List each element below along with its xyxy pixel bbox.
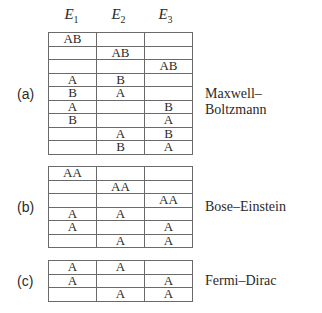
state-cell xyxy=(97,60,145,74)
state-cell xyxy=(49,194,97,208)
bose-einstein-table: AAAAAAAAAAAA xyxy=(48,166,193,248)
maxwell-boltzmann-table: ABABABABBAABBAABBA xyxy=(48,32,193,155)
state-cell xyxy=(97,221,145,235)
state-cell xyxy=(49,60,97,74)
state-cell xyxy=(145,87,193,101)
table-row: AB xyxy=(49,60,193,74)
state-cell: AA xyxy=(145,194,193,208)
table-row: AA xyxy=(49,221,193,235)
state-cell xyxy=(145,261,193,275)
table-row: AA xyxy=(49,261,193,275)
table-row: AA xyxy=(49,288,193,302)
state-cell: A xyxy=(97,288,145,302)
state-cell xyxy=(145,33,193,47)
state-cell: A xyxy=(145,114,193,128)
table-row: AA xyxy=(49,167,193,181)
state-cell: A xyxy=(97,234,145,248)
state-cell xyxy=(97,33,145,47)
state-cell: A xyxy=(49,221,97,235)
state-cell xyxy=(49,288,97,302)
state-cell: A xyxy=(145,221,193,235)
state-cell xyxy=(97,167,145,181)
statistics-name-maxwell-boltzmann: Maxwell–Boltzmann xyxy=(205,86,322,118)
state-cell: AB xyxy=(49,33,97,47)
state-cell: A xyxy=(97,87,145,101)
table-row: AB xyxy=(49,33,193,47)
state-cell: AB xyxy=(145,60,193,74)
statistics-name-fermi-dirac: Fermi–Dirac xyxy=(205,273,277,289)
state-cell: A xyxy=(49,261,97,275)
energy-level-header-e3: E3 xyxy=(142,6,189,25)
state-cell xyxy=(97,100,145,114)
energy-level-header-e2: E2 xyxy=(95,6,142,25)
statistics-name-bose-einstein: Bose–Einstein xyxy=(205,199,286,215)
panel-label-b: (b) xyxy=(17,199,34,215)
state-cell xyxy=(49,141,97,155)
state-cell: B xyxy=(49,114,97,128)
state-cell: A xyxy=(97,261,145,275)
state-cell xyxy=(97,114,145,128)
table-row: AA xyxy=(49,234,193,248)
panel-label-c: (c) xyxy=(17,273,33,289)
state-cell: A xyxy=(97,207,145,221)
state-cell: AA xyxy=(49,167,97,181)
table-row: BA xyxy=(49,141,193,155)
state-cell xyxy=(49,127,97,141)
table-row: BA xyxy=(49,114,193,128)
state-cell xyxy=(49,234,97,248)
state-cell: A xyxy=(49,274,97,288)
energy-level-header-e1: E1 xyxy=(48,6,95,25)
state-cell: B xyxy=(97,141,145,155)
fermi-dirac-table: AAAAAA xyxy=(48,260,193,302)
state-cell xyxy=(145,167,193,181)
panel-label-a: (a) xyxy=(17,86,34,102)
state-cell: A xyxy=(145,234,193,248)
state-cell xyxy=(49,180,97,194)
table-row: BA xyxy=(49,87,193,101)
state-cell: AB xyxy=(97,46,145,60)
state-cell: A xyxy=(145,141,193,155)
state-cell xyxy=(49,46,97,60)
state-cell: B xyxy=(49,87,97,101)
state-cell: A xyxy=(145,288,193,302)
state-cell xyxy=(97,194,145,208)
table-row: AA xyxy=(49,194,193,208)
state-cell: AA xyxy=(97,180,145,194)
state-cell xyxy=(145,73,193,87)
